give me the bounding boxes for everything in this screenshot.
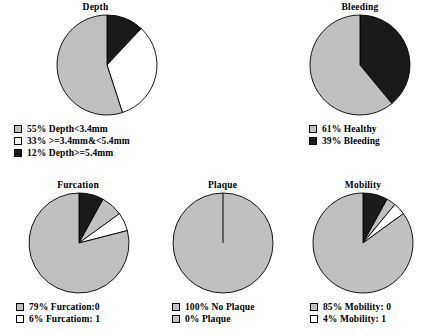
pie-chart-plaque xyxy=(171,191,275,295)
legend-label: 39% Bleeding xyxy=(322,135,380,147)
pie-svg-depth xyxy=(55,13,159,117)
legend-item: 4% Mobility: 1 xyxy=(310,313,426,325)
chart-title-mobility: Mobility xyxy=(300,180,426,191)
legend-item: 0% Plaque xyxy=(172,313,285,325)
legend-item: 85% Mobility: 0 xyxy=(310,301,426,313)
chart-title-depth: Depth xyxy=(0,2,199,13)
pie-chart-furcation xyxy=(27,191,131,295)
legend-label: 85% Mobility: 0 xyxy=(323,301,391,313)
legend-item: 61% Healthy xyxy=(309,123,424,135)
legend-plaque: 100% No Plaque 0% Plaque xyxy=(172,301,285,325)
chart-panel-bleeding: Bleeding 61% Healthy 39% Bleeding xyxy=(296,2,424,147)
legend-depth: 55% Depth<3.4mm 33% >=3.4mm&<5.4mm 12% D… xyxy=(14,123,199,159)
pie-svg-bleeding xyxy=(308,13,412,117)
legend-swatch xyxy=(14,125,22,133)
pie-chart-depth xyxy=(55,13,159,117)
legend-swatch xyxy=(172,303,180,311)
pie-svg-plaque xyxy=(171,191,275,295)
legend-label: 55% Depth<3.4mm xyxy=(27,123,108,135)
pie-svg-mobility xyxy=(311,191,415,295)
legend-swatch xyxy=(172,315,180,323)
chart-title-furcation: Furcation xyxy=(12,180,144,191)
legend-item: 55% Depth<3.4mm xyxy=(14,123,199,135)
legend-swatch xyxy=(16,303,24,311)
pie-svg-furcation xyxy=(27,191,131,295)
legend-label: 4% Mobility: 1 xyxy=(323,313,386,325)
legend-mobility: 85% Mobility: 0 4% Mobility: 1 xyxy=(310,301,426,325)
chart-panel-furcation: Furcation 79% Furcation:0 6% Furcatiom: … xyxy=(14,180,144,325)
pie-chart-bleeding xyxy=(308,13,412,117)
legend-swatch xyxy=(16,315,24,323)
legend-label: 12% Depth>=5.4mm xyxy=(27,147,113,159)
legend-item: 6% Furcatiom: 1 xyxy=(16,313,144,325)
legend-bleeding: 61% Healthy 39% Bleeding xyxy=(309,123,424,147)
legend-swatch xyxy=(14,149,22,157)
chart-title-bleeding: Bleeding xyxy=(296,2,424,13)
chart-panel-plaque: Plaque 100% No Plaque 0% Plaque xyxy=(160,180,285,325)
legend-item: 79% Furcation:0 xyxy=(16,301,144,313)
legend-label: 0% Plaque xyxy=(185,313,231,325)
legend-item: 12% Depth>=5.4mm xyxy=(14,147,199,159)
legend-swatch xyxy=(14,137,22,145)
legend-swatch xyxy=(310,315,318,323)
legend-furcation: 79% Furcation:0 6% Furcatiom: 1 xyxy=(16,301,144,325)
legend-label: 79% Furcation:0 xyxy=(29,301,100,313)
chart-panel-depth: Depth 55% Depth<3.4mm 33% >=3.4mm&<5.4mm… xyxy=(14,2,199,159)
legend-label: 33% >=3.4mm&<5.4mm xyxy=(27,135,130,147)
legend-label: 6% Furcatiom: 1 xyxy=(29,313,100,325)
chart-title-plaque: Plaque xyxy=(160,180,285,191)
legend-swatch xyxy=(309,137,317,145)
legend-label: 100% No Plaque xyxy=(185,301,255,313)
legend-label: 61% Healthy xyxy=(322,123,377,135)
pie-chart-mobility xyxy=(311,191,415,295)
legend-item: 39% Bleeding xyxy=(309,135,424,147)
legend-swatch xyxy=(309,125,317,133)
legend-swatch xyxy=(310,303,318,311)
chart-panel-mobility: Mobility 85% Mobility: 0 4% Mobility: 1 xyxy=(300,180,426,325)
legend-item: 100% No Plaque xyxy=(172,301,285,313)
legend-item: 33% >=3.4mm&<5.4mm xyxy=(14,135,199,147)
